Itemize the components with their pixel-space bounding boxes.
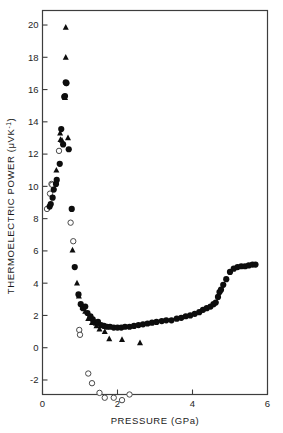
data-point-filled-triangle bbox=[119, 336, 125, 342]
data-point-filled-circle bbox=[213, 299, 219, 305]
data-point-open-circle bbox=[71, 239, 76, 244]
series-filled-triangles bbox=[53, 24, 143, 345]
data-point-filled-triangle bbox=[70, 247, 76, 253]
x-axis-tick-labels: 0246 bbox=[40, 398, 270, 409]
data-point-filled-circle bbox=[66, 146, 72, 152]
x-tick-label: 0 bbox=[40, 398, 45, 409]
y-tick-label: 4 bbox=[33, 278, 38, 289]
data-point-open-circle bbox=[127, 392, 132, 397]
data-point-filled-circle bbox=[69, 206, 75, 212]
data-point-filled-triangle bbox=[137, 340, 143, 346]
data-point-open-circle bbox=[77, 332, 82, 337]
data-point-filled-triangle bbox=[53, 167, 59, 173]
plot-frame bbox=[43, 11, 268, 395]
x-tick-label: 6 bbox=[265, 398, 270, 409]
y-tick-label: 18 bbox=[28, 52, 39, 63]
data-point-open-circle bbox=[97, 390, 102, 395]
x-axis-label: PRESSURE (GPa) bbox=[111, 415, 200, 426]
x-tick-label: 4 bbox=[190, 398, 195, 409]
y-tick-label: 2 bbox=[33, 310, 38, 321]
data-point-filled-circle bbox=[62, 93, 68, 99]
data-point-filled-circle bbox=[75, 291, 81, 297]
data-point-filled-circle bbox=[223, 276, 229, 282]
y-tick-label: 14 bbox=[28, 116, 39, 127]
data-point-open-circle bbox=[56, 148, 61, 153]
data-point-open-circle bbox=[119, 397, 124, 402]
y-axis-label-unit: VK bbox=[5, 129, 16, 143]
data-point-filled-circle bbox=[60, 141, 66, 147]
data-point-filled-triangle bbox=[74, 280, 80, 286]
data-point-filled-triangle bbox=[63, 54, 69, 60]
data-point-open-circle bbox=[89, 381, 94, 386]
y-tick-label: 8 bbox=[33, 213, 38, 224]
y-axis-label: THERMOELECTRIC POWER (μVK-1) bbox=[5, 118, 17, 294]
data-point-filled-circle bbox=[50, 195, 56, 201]
data-point-filled-circle bbox=[72, 264, 78, 270]
y-axis-label-exponent: -1 bbox=[5, 122, 12, 129]
y-axis-ticks bbox=[43, 25, 48, 380]
data-point-filled-circle bbox=[153, 319, 159, 325]
data-point-filled-triangle bbox=[63, 24, 69, 30]
data-point-filled-circle bbox=[168, 317, 174, 323]
series-filled-circles bbox=[47, 79, 259, 330]
data-point-open-circle bbox=[111, 395, 116, 400]
figure-container: -202468101214161820 0246 PRESSURE (GPa) … bbox=[0, 0, 283, 433]
y-tick-label: -2 bbox=[30, 374, 38, 385]
data-point-filled-circle bbox=[54, 177, 60, 183]
data-point-filled-circle bbox=[51, 186, 57, 192]
x-axis-ticks bbox=[43, 390, 268, 395]
data-point-filled-circle bbox=[63, 80, 69, 86]
y-axis-tick-labels: -202468101214161820 bbox=[28, 19, 39, 385]
series-open-circles bbox=[44, 80, 132, 402]
data-point-filled-circle bbox=[252, 262, 258, 268]
data-point-filled-triangle bbox=[65, 135, 71, 141]
data-point-filled-circle bbox=[57, 161, 63, 167]
y-axis-label-text: THERMOELECTRIC POWER ( bbox=[5, 148, 16, 294]
y-tick-label: 0 bbox=[33, 342, 38, 353]
y-tick-label: 20 bbox=[28, 19, 39, 30]
y-tick-label: 6 bbox=[33, 245, 38, 256]
data-point-filled-circle bbox=[82, 303, 88, 309]
y-tick-label: 12 bbox=[28, 148, 39, 159]
data-point-filled-circle bbox=[220, 282, 226, 288]
data-point-filled-triangle bbox=[106, 335, 112, 341]
data-point-filled-circle bbox=[48, 201, 54, 207]
y-axis-label-close: ) bbox=[5, 118, 16, 122]
data-point-open-circle bbox=[68, 220, 73, 225]
thermoelectric-power-vs-pressure-chart: -202468101214161820 0246 PRESSURE (GPa) … bbox=[0, 0, 283, 433]
y-axis-label-group: THERMOELECTRIC POWER (μVK-1) bbox=[5, 118, 17, 294]
data-point-open-circle bbox=[102, 395, 107, 400]
y-tick-label: 16 bbox=[28, 84, 39, 95]
data-point-filled-circle bbox=[58, 126, 64, 132]
data-point-open-circle bbox=[86, 371, 91, 376]
y-tick-label: 10 bbox=[28, 181, 39, 192]
